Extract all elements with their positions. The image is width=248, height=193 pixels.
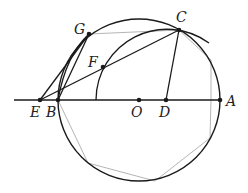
point-c	[177, 28, 182, 33]
label-d: D	[158, 104, 170, 120]
point-a	[218, 98, 223, 103]
point-e	[38, 98, 43, 103]
label-b: B	[45, 104, 56, 120]
point-b	[56, 98, 61, 103]
segment-e-c	[40, 30, 179, 100]
segment-e-g	[40, 34, 89, 100]
point-o	[137, 98, 142, 103]
label-e: E	[29, 104, 40, 120]
point-g	[87, 32, 92, 37]
label-a: A	[224, 93, 236, 109]
label-g: G	[74, 21, 85, 37]
segment-b-g	[58, 34, 89, 100]
point-f	[101, 65, 106, 70]
label-c: C	[176, 9, 187, 25]
inner-arc	[96, 29, 209, 100]
label-f: F	[87, 54, 99, 70]
geometry-diagram: E B O D A C G F	[0, 0, 248, 193]
label-o: O	[131, 104, 143, 120]
point-d	[164, 98, 169, 103]
segment-d-c	[166, 30, 179, 100]
